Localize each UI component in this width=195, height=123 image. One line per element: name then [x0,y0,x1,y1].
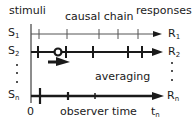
stimuli-label: stimuli [9,5,46,17]
chain-row-1 [31,29,162,39]
axis-origin-label: 0 [27,106,34,118]
ellipsis-dots-right-icon [171,62,173,81]
response-label-2: R2 [168,46,180,61]
arrowhead-icon [153,31,162,37]
response-label-1: R1 [168,28,180,43]
stimulus-label-n: Sn [8,89,19,104]
causal-chain-label: causal chain [65,11,134,23]
responses-label: responses [136,5,192,17]
arrowhead-icon [152,48,163,56]
chain-row-2 [31,46,163,58]
averaging-label: averaging [95,71,150,83]
axis-end-label: tn [151,106,160,121]
arrowhead-icon [152,92,164,100]
response-label-n: Rn [167,90,179,105]
averaging-arrow-icon [48,57,70,66]
stimulus-label-1: S1 [8,27,19,42]
ellipsis-dots-left-icon [16,64,18,83]
axis-label: observer time [60,106,137,118]
event-circle-icon [55,49,62,56]
chain-row-n [31,88,164,104]
stimulus-label-2: S2 [8,45,19,60]
